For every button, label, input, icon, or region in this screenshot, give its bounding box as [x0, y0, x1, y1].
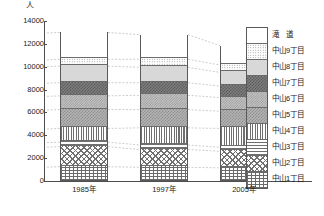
bar-segment: [61, 146, 107, 166]
bar-segment: [141, 58, 187, 66]
y-axis-tick-label: 10000: [4, 63, 44, 71]
y-axis-tick-label: 6000: [4, 108, 44, 116]
legend-label-list: 滝 道中山9丁目中山8丁目中山7丁目中山6丁目中山5丁目中山4丁目中山3丁目中山…: [272, 27, 304, 187]
y-axis-tick-mark: [44, 67, 47, 68]
legend-label: 滝 道: [272, 27, 304, 43]
legend-swatch: [247, 156, 267, 172]
bar-segment: [61, 109, 107, 128]
legend-label: 中山2丁目: [272, 155, 304, 171]
x-axis-label: 1985年: [44, 185, 124, 194]
legend-swatch-stack: [246, 27, 268, 189]
y-axis-tick-label: 12000: [4, 40, 44, 48]
y-axis-tick-label: 8000: [4, 86, 44, 94]
legend-label: 中山9丁目: [272, 43, 304, 59]
bar-segment: [61, 95, 107, 109]
y-axis-tick-mark: [44, 158, 47, 159]
y-axis-tick-label: 0: [4, 177, 44, 185]
y-axis-tick-mark: [44, 44, 47, 45]
legend-label: 中山8丁目: [272, 59, 304, 75]
bar-segment: [61, 65, 107, 82]
legend-swatch: [247, 140, 267, 156]
legend-label: 中山5丁目: [272, 107, 304, 123]
legend-swatch: [247, 124, 267, 140]
legend-label: 中山4丁目: [272, 123, 304, 139]
legend-swatch: [247, 44, 267, 60]
bar-segment: [141, 144, 187, 149]
stacked-bar-chart: 人 02000400060008000100001200014000 滝 道中山…: [0, 0, 324, 216]
bar-segment: [141, 166, 187, 180]
bar-segment: [61, 141, 107, 146]
bar-1997年: [140, 35, 188, 181]
y-axis-tick-mark: [44, 181, 47, 182]
bar-segment: [141, 66, 187, 81]
legend-swatch: [247, 108, 267, 124]
y-axis-tick-labels: 02000400060008000100001200014000: [0, 0, 44, 216]
bar-segment: [61, 58, 107, 65]
y-axis-tick-mark: [44, 90, 47, 91]
legend-label: 中山7丁目: [272, 75, 304, 91]
bar-1985年: [60, 32, 108, 181]
bar-segment: [141, 82, 187, 95]
y-axis-tick-label: 4000: [4, 131, 44, 139]
bar-segment: [61, 31, 107, 58]
legend-swatch: [247, 92, 267, 108]
bar-segment: [141, 149, 187, 167]
bar-segment: [61, 82, 107, 95]
y-axis-tick-mark: [44, 112, 47, 113]
y-axis-tick-label: 2000: [4, 154, 44, 162]
bar-segment: [61, 127, 107, 141]
x-axis-label: 2005年: [204, 185, 284, 194]
legend-label: 中山6丁目: [272, 91, 304, 107]
y-axis-tick-label: 14000: [4, 17, 44, 25]
bar-segment: [141, 109, 187, 127]
legend-label: 中山3丁目: [272, 139, 304, 155]
bar-segment: [141, 127, 187, 144]
legend-swatch: [247, 76, 267, 92]
legend-swatch: [247, 28, 267, 44]
bar-segment: [141, 94, 187, 108]
bar-segment: [141, 34, 187, 59]
x-axis-label: 1997年: [124, 185, 204, 194]
legend-swatch: [247, 60, 267, 76]
y-axis-tick-mark: [44, 21, 47, 22]
bar-segment: [61, 166, 107, 180]
y-axis-tick-mark: [44, 135, 47, 136]
